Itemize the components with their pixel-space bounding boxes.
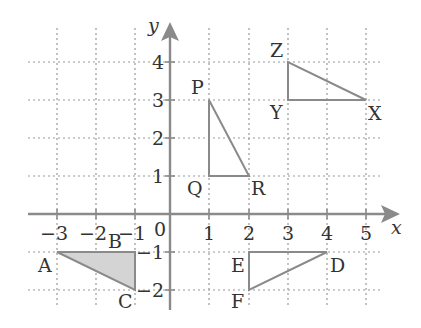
vertex-label-r: R bbox=[251, 177, 266, 199]
vertex-label-z: Z bbox=[270, 39, 283, 61]
vertex-label-d: D bbox=[330, 254, 345, 276]
vertex-label-e: E bbox=[231, 254, 245, 276]
x-tick-label: −3 bbox=[40, 222, 68, 244]
x-tick-label: −2 bbox=[79, 222, 107, 244]
vertex-label-a: A bbox=[37, 254, 52, 276]
y-axis-label: y bbox=[147, 14, 159, 36]
vertex-label-f: F bbox=[231, 290, 244, 312]
y-tick-label: 1 bbox=[152, 165, 164, 187]
vertex-label-b: B bbox=[108, 230, 122, 252]
y-tick-label: −2 bbox=[136, 279, 164, 301]
x-axis-label: x bbox=[391, 216, 402, 238]
x-tick-label: 4 bbox=[321, 222, 333, 244]
coordinate-grid-diagram: y x 0 −3 −2 −1 1 2 3 4 5 4 3 2 1 −1 −2 A… bbox=[0, 0, 421, 328]
x-tick-label: 3 bbox=[282, 222, 294, 244]
x-tick-labels: −3 −2 −1 1 2 3 4 5 bbox=[40, 222, 372, 244]
vertex-label-p: P bbox=[191, 76, 204, 98]
vertex-label-y: Y bbox=[269, 101, 283, 123]
y-tick-label: 2 bbox=[152, 127, 164, 149]
x-tick-label: 5 bbox=[360, 222, 372, 244]
y-tick-label: 4 bbox=[152, 51, 164, 73]
origin-label: 0 bbox=[154, 218, 166, 240]
y-tick-label: 3 bbox=[152, 89, 164, 111]
vertex-label-q: Q bbox=[187, 177, 203, 199]
y-tick-label: −1 bbox=[136, 241, 164, 263]
vertex-label-x: X bbox=[368, 102, 382, 124]
x-tick-label: 1 bbox=[203, 222, 215, 244]
vertex-label-c: C bbox=[118, 290, 133, 312]
x-tick-label: 2 bbox=[243, 222, 255, 244]
